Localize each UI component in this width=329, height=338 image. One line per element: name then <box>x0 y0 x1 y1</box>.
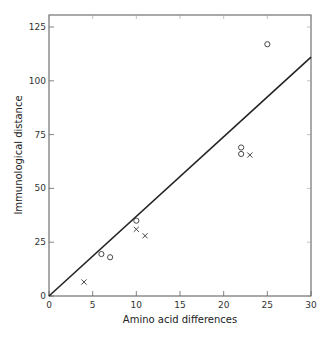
x-tick-label: 5 <box>90 300 96 310</box>
circle-marker <box>99 251 104 256</box>
data-points <box>81 42 270 285</box>
x-tick-label: 15 <box>174 300 185 310</box>
circle-marker <box>134 218 139 223</box>
scatter-chart: 0255075100125 051015202530 Amino acid di… <box>0 0 329 338</box>
x-tick-label: 0 <box>46 300 52 310</box>
x-tick-label: 25 <box>262 300 273 310</box>
y-tick-label: 125 <box>29 22 46 32</box>
y-tick-label: 25 <box>35 237 46 247</box>
y-axis-label: Immunological distance <box>13 95 24 214</box>
y-tick-label: 100 <box>29 76 46 86</box>
x-tick-label: 10 <box>131 300 143 310</box>
circle-marker <box>239 151 244 156</box>
regression-line <box>49 57 311 296</box>
x-tick-label: 20 <box>218 300 230 310</box>
circle-marker <box>239 145 244 150</box>
cross-marker <box>142 233 147 238</box>
plot-frame <box>49 15 311 296</box>
y-tick-label: 50 <box>35 183 47 193</box>
cross-marker <box>81 279 86 284</box>
x-tick-label: 30 <box>305 300 317 310</box>
y-tick-label: 75 <box>35 130 46 140</box>
x-axis: 051015202530 <box>46 15 317 310</box>
circle-marker <box>108 255 113 260</box>
circle-marker <box>265 42 270 47</box>
cross-marker <box>134 227 139 232</box>
cross-marker <box>247 152 252 157</box>
x-axis-label: Amino acid differences <box>123 314 237 325</box>
y-axis: 0255075100125 <box>29 22 311 301</box>
